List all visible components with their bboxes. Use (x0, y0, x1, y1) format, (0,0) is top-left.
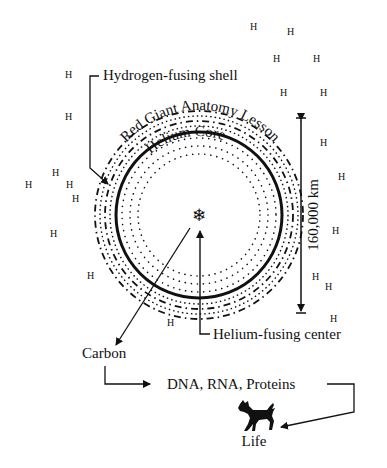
hydrogen-atom: H (325, 281, 332, 292)
hydrogen-atom: H (66, 179, 73, 190)
hydrogen-atom: H (332, 225, 339, 236)
hydrogen-atom: H (273, 53, 280, 64)
hydrogen-atom: H (250, 21, 257, 32)
snowflake-icon: ❄ (192, 206, 206, 225)
shell-label: Hydrogen-fusing shell (103, 67, 238, 83)
molecules-label: DNA, RNA, Proteins (167, 376, 295, 392)
hydrogen-atom: H (52, 167, 59, 178)
hydrogen-atom: H (87, 270, 94, 281)
carbon-label: Carbon (82, 345, 127, 361)
carbon-arrow (116, 228, 190, 345)
hydrogen-atom: H (287, 26, 294, 37)
hydrogen-atom: H (50, 228, 57, 239)
helium-core-label: Helium Core (143, 123, 228, 156)
red-giant-diagram: HHHHHHHHHHHHHHHHHHHHH Red Giant Anatomy … (0, 0, 387, 468)
diameter-label: 160,000 km (305, 179, 321, 251)
hydrogen-atom: H (280, 87, 287, 98)
hydrogen-atom: H (313, 53, 320, 64)
hydrogen-atom: H (65, 69, 72, 80)
hydrogen-atom: H (25, 179, 32, 190)
shell-pointer-arrow (90, 76, 108, 184)
carbon-to-molecules-arrow (105, 366, 150, 384)
hydrogen-atom: H (320, 137, 327, 148)
hydrogen-atom: H (312, 271, 319, 282)
hydrogen-atom: H (320, 87, 327, 98)
hydrogen-atom: H (330, 313, 337, 324)
hydrogen-atom: H (65, 111, 72, 122)
center-label: Helium-fusing center (213, 326, 341, 342)
hydrogen-atom: H (72, 193, 79, 204)
dog-icon (238, 400, 275, 431)
life-label: Life (242, 433, 267, 449)
hydrogen-atom: H (167, 317, 174, 328)
hydrogen-atom: H (338, 171, 345, 182)
